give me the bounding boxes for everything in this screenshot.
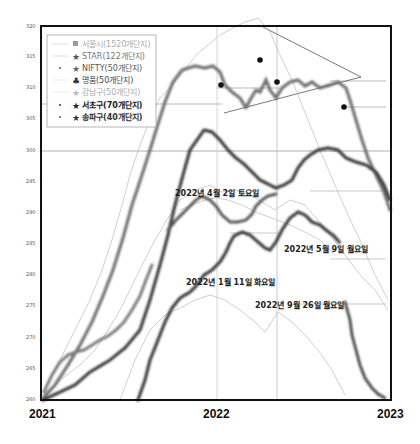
club-icon: ♣: [72, 76, 80, 86]
star-icon: ★: [72, 101, 80, 111]
y-tick-275: 275: [26, 302, 36, 308]
legend-label: STAR(122개단지): [82, 51, 145, 61]
x-tick-2022: 2022: [203, 407, 230, 421]
annotation-sep-26: 2022년 9월 26일 월요일: [255, 300, 344, 310]
y-tick-260: 260: [26, 396, 36, 402]
x-tick-2021: 2021: [29, 407, 56, 421]
annotation-may-9: 2022년 5월 9일 월요일: [284, 244, 368, 254]
y-tick-285: 285: [26, 240, 36, 246]
highlight-point-2[interactable]: [257, 57, 263, 63]
legend-item-seocho[interactable]: ★ 서초구(70개단지): [59, 100, 142, 111]
legend-label: 서울시(1520개단지): [82, 39, 151, 49]
line-chart: 320 315 310 305 300 295 290 285 280 275 …: [0, 0, 420, 444]
star-icon: ★: [72, 52, 80, 62]
y-tick-310: 310: [26, 84, 36, 90]
star-icon: ★: [72, 88, 80, 98]
triangle-upper-trendline: [263, 27, 361, 77]
star-icon: ★: [72, 64, 80, 74]
y-axis-labels: 320 315 310 305 300 295 290 285 280 275 …: [26, 23, 36, 402]
y-tick-300: 300: [26, 147, 36, 153]
y-tick-295: 295: [26, 178, 36, 184]
annotation-jan-11: 2022년 1월 11일 화요일: [186, 277, 275, 287]
legend: 서울시(1520개단지) ★ STAR(122개단지) ★ NIFTY(50개단…: [47, 35, 156, 127]
y-tick-280: 280: [26, 271, 36, 277]
highlight-point-1[interactable]: [218, 82, 224, 88]
legend-label: 송파구(40개단지): [82, 112, 142, 122]
legend-label: 명품(50개단지): [82, 75, 133, 85]
highlight-points: [218, 57, 347, 110]
legend-item-nifty[interactable]: ★ NIFTY(50개단지): [59, 63, 142, 74]
thin-line-2: [44, 185, 388, 398]
y-tick-320: 320: [26, 23, 36, 29]
legend-item-songpa[interactable]: ★ 송파구(40개단지): [59, 112, 142, 123]
star-icon: ★: [72, 113, 80, 123]
highlight-point-4[interactable]: [341, 104, 347, 110]
y-tick-290: 290: [26, 209, 36, 215]
legend-label: 강남구(50개단지): [82, 87, 140, 97]
series-bottom-band: [345, 302, 385, 398]
series-left-cluster: [44, 265, 152, 392]
y-tick-315: 315: [26, 53, 36, 59]
y-tick-265: 265: [26, 365, 36, 371]
x-axis-labels: 2021 2022 2023: [29, 407, 404, 421]
legend-label: NIFTY(50개단지): [82, 63, 142, 73]
y-tick-270: 270: [26, 334, 36, 340]
legend-label: 서초구(70개단지): [82, 100, 142, 110]
y-tick-305: 305: [26, 115, 36, 121]
square-icon: [73, 41, 78, 46]
highlight-point-3[interactable]: [274, 79, 280, 85]
x-tick-2023: 2023: [377, 407, 404, 421]
annotation-apr-2: 2022년 4월 2일 토요일: [175, 188, 259, 198]
